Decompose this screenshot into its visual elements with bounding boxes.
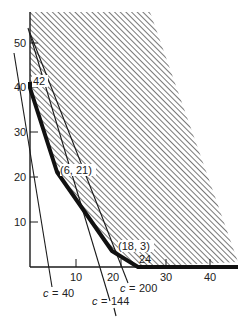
x-tick-label-10: 10 [70, 271, 82, 283]
y-tick-label-20: 20 [14, 171, 26, 183]
svg-text:c: c [43, 287, 49, 299]
lp-diagram: 10 20 30 40 50 10 20 30 40 42 (6, 21) (1… [0, 0, 251, 329]
vertex-label-6-21: (6, 21) [60, 164, 92, 176]
x-tick-label-20: 20 [107, 271, 119, 283]
svg-text:40: 40 [62, 287, 74, 299]
vertex-label-24: 24 [139, 253, 151, 265]
svg-text:144: 144 [111, 295, 129, 307]
svg-text:=: = [101, 295, 107, 307]
vertex-label-42: 42 [33, 75, 45, 87]
y-tick-label-50: 50 [14, 37, 26, 49]
y-tick-label-30: 30 [14, 126, 26, 138]
svg-text:c: c [92, 295, 98, 307]
cost-line-144-tail [114, 308, 116, 316]
x-tick-label-40: 40 [204, 271, 216, 283]
svg-text:=: = [129, 282, 135, 294]
svg-text:200: 200 [139, 282, 157, 294]
y-tick-label-10: 10 [14, 216, 26, 228]
vertex-label-18-3: (18, 3) [118, 240, 150, 252]
x-tick-label-30: 30 [160, 271, 172, 283]
cost-label-200: c = 200 [120, 282, 157, 294]
svg-text:=: = [52, 287, 58, 299]
svg-text:c: c [120, 282, 126, 294]
cost-label-40: c = 40 [43, 287, 74, 299]
cost-label-144: c = 144 [92, 295, 129, 307]
